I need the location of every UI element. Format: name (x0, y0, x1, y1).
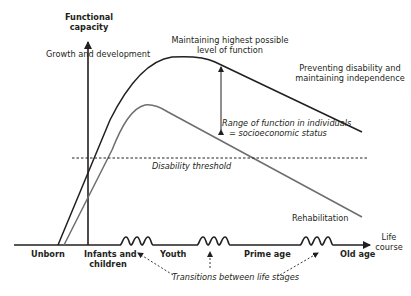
x-axis-label-line1: Life (370, 232, 408, 242)
stage-infants-line1: Infants and (84, 249, 132, 259)
maintaining-label-line2: level of function (160, 45, 300, 55)
stage-prime-age: Prime age (244, 249, 291, 259)
x-axis-label-line2: course (370, 242, 408, 252)
stage-youth: Youth (160, 249, 186, 259)
disability-threshold-label: Disability threshold (152, 161, 231, 171)
y-axis-label-line1: Functional (62, 12, 116, 22)
growth-label: Growth and development (46, 49, 150, 59)
y-axis-label: Functional capacity (62, 12, 116, 32)
y-axis-label-line2: capacity (62, 22, 116, 32)
rehabilitation-label: Rehabilitation (292, 213, 349, 223)
stage-infants-line2: children (84, 259, 132, 269)
transitions-label: Transitions between life stages (172, 272, 299, 282)
preventing-label-line1: Preventing disability and (290, 63, 410, 73)
range-label: Range of function in individuals = socio… (222, 118, 334, 138)
range-label-line2: = socioeconomic status (222, 128, 334, 138)
maintaining-label: Maintaining highest possible level of fu… (160, 35, 300, 55)
stage-infants-children: Infants and children (84, 249, 132, 269)
preventing-label-line2: maintaining independence (290, 73, 410, 83)
maintaining-label-line1: Maintaining highest possible (160, 35, 300, 45)
preventing-label: Preventing disability and maintaining in… (290, 63, 410, 83)
range-label-line1: Range of function in individuals (222, 118, 334, 128)
x-axis-label: Life course (370, 232, 408, 252)
stage-unborn: Unborn (31, 249, 65, 259)
